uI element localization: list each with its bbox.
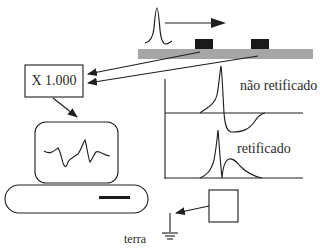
rectified-label: retificado — [237, 141, 291, 157]
amplifier-gain-label: X 1.000 — [25, 65, 83, 97]
unrectified-signal — [200, 66, 265, 132]
electrode-2 — [251, 39, 269, 49]
ground-icon — [162, 233, 178, 239]
unrectified-label: não retificado — [240, 78, 317, 94]
propagation-arrow-icon — [165, 18, 226, 28]
amplifier-to-monitor-arrow — [53, 98, 77, 117]
action-potential-pulse — [145, 8, 172, 44]
ground-wire — [176, 206, 209, 213]
electrode-1 — [195, 39, 213, 49]
disk-slot — [99, 196, 130, 199]
ground-label: terra — [124, 232, 146, 247]
emg-diagram — [0, 0, 320, 250]
muscle-fiber-bar — [138, 49, 313, 59]
reference-electrode-box — [209, 190, 238, 222]
